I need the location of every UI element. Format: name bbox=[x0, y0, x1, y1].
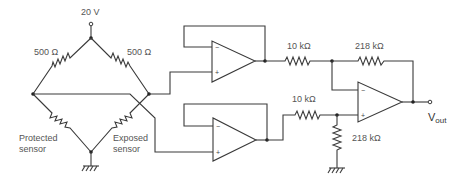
upper-buffer-plus-label: + bbox=[215, 69, 219, 76]
resistor-10k-top-icon bbox=[265, 57, 332, 65]
supply-terminal: 20 V bbox=[81, 7, 100, 40]
exposed-sensor-label-line1: Exposed bbox=[113, 133, 148, 143]
resistor-10k-top-label: 10 kΩ bbox=[287, 41, 311, 51]
circuit-diagram: 20 V 500 Ω 500 Ω Protected sensor Expose… bbox=[0, 0, 464, 187]
resistor-218k-ground-icon bbox=[333, 115, 341, 168]
ground-icon bbox=[82, 166, 99, 171]
upper-buffer-minus-label: − bbox=[215, 44, 219, 51]
wheatstone-bridge: 500 Ω 500 Ω Protected sensor Exposed sen… bbox=[19, 38, 152, 171]
resistor-10k-bottom-icon bbox=[267, 111, 358, 140]
diff-amp-minus-label: − bbox=[361, 87, 365, 94]
exposed-sensor-label-line2: sensor bbox=[113, 144, 140, 154]
diff-amp-plus-label: + bbox=[361, 112, 365, 119]
resistor-500-right-label: 500 Ω bbox=[127, 47, 152, 57]
output-node-dot bbox=[411, 100, 415, 104]
wire-right-node-to-upper-buffer bbox=[149, 72, 212, 94]
vout-label: Vout bbox=[428, 111, 447, 125]
upper-buffer-opamp: − + bbox=[184, 26, 267, 82]
lower-buffer-plus-label: + bbox=[216, 149, 220, 156]
supply-terminal-icon bbox=[89, 22, 93, 26]
resistor-500-left-label: 500 Ω bbox=[34, 47, 59, 57]
ground-icon-diff-amp bbox=[328, 168, 345, 173]
output-terminal-icon bbox=[428, 100, 432, 104]
protected-sensor-label-line1: Protected bbox=[19, 133, 58, 143]
resistor-218k-feedback-icon bbox=[332, 57, 413, 102]
protected-sensor-label-line2: sensor bbox=[19, 144, 46, 154]
difference-amplifier: 10 kΩ 218 kΩ − + Vout 10 kΩ 218 kΩ bbox=[265, 41, 447, 173]
supply-voltage-label: 20 V bbox=[81, 7, 100, 17]
lower-buffer-minus-label: − bbox=[216, 123, 220, 130]
resistor-10k-bottom-label: 10 kΩ bbox=[292, 94, 316, 104]
resistor-218k-ground-label: 218 kΩ bbox=[352, 133, 381, 143]
resistor-218k-feedback-label: 218 kΩ bbox=[355, 41, 384, 51]
